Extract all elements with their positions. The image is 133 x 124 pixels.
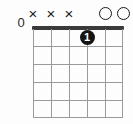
string-marker-1: ×: [26, 7, 40, 21]
fret-line-3: [33, 82, 123, 83]
string-line-6: [122, 29, 123, 118]
fret-line-1: [33, 46, 123, 47]
string-marker-row: × × ×: [0, 0, 133, 29]
string-marker-5: [99, 7, 112, 20]
string-marker-3: ×: [62, 7, 76, 21]
string-line-5: [105, 29, 106, 118]
chord-diagram: 0 × × × 1: [0, 0, 133, 124]
string-line-2: [51, 29, 52, 118]
string-marker-4: [80, 7, 94, 21]
finger-dot-1: 1: [80, 30, 95, 45]
nut-bar: [32, 26, 124, 30]
string-marker-6: [117, 7, 130, 20]
string-marker-2: ×: [44, 7, 58, 21]
fretboard-grid: 1: [33, 29, 123, 118]
string-line-1: [33, 29, 34, 118]
fret-line-5: [33, 117, 123, 118]
fret-line-2: [33, 64, 123, 65]
fret-line-4: [33, 100, 123, 101]
string-line-3: [69, 29, 70, 118]
